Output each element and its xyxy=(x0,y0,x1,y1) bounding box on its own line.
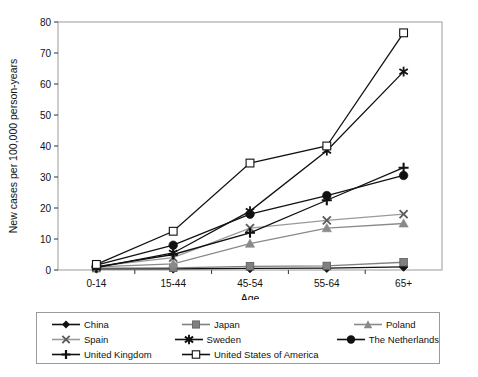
chart-legend: China Japan Poland xyxy=(36,312,440,364)
legend-label: United States of America xyxy=(211,350,319,360)
x-tick-label: 55-64 xyxy=(314,278,340,289)
united-states-of-america-marker-icon xyxy=(181,348,211,361)
legend-item-china: China xyxy=(51,317,181,332)
legend-item-spain: Spain xyxy=(51,332,174,347)
y-tick-label: 60 xyxy=(40,79,52,90)
data-point xyxy=(400,258,408,266)
legend-item-poland: Poland xyxy=(353,317,416,332)
x-axis-title: Age xyxy=(241,292,260,300)
legend-row: Spain Sweden The Netherlands xyxy=(51,332,439,347)
y-tick-label: 10 xyxy=(40,234,52,245)
poland-marker-icon xyxy=(353,318,383,331)
y-tick-label: 20 xyxy=(40,203,52,214)
legend-label: United Kingdom xyxy=(81,350,152,360)
legend-grid: China Japan Poland xyxy=(37,313,439,362)
china-marker-icon xyxy=(51,318,81,331)
the-netherlands-marker-icon xyxy=(336,333,366,346)
legend-label: Poland xyxy=(383,320,416,330)
x-tick-label: 45-54 xyxy=(237,278,263,289)
legend-item-united-kingdom: United Kingdom xyxy=(51,347,181,362)
y-tick-label: 70 xyxy=(40,48,52,59)
legend-item-sweden: Sweden xyxy=(174,332,336,347)
legend-item-the-netherlands: The Netherlands xyxy=(336,332,439,347)
data-point xyxy=(399,163,409,173)
sweden-marker-icon xyxy=(174,333,204,346)
x-tick-label: 15-44 xyxy=(160,278,186,289)
y-tick-label: 50 xyxy=(40,110,52,121)
united-kingdom-marker-icon xyxy=(51,348,81,361)
data-point xyxy=(399,219,408,227)
line-chart: 010203040506070800-1415-4445-5455-6465+A… xyxy=(0,0,478,300)
legend-label: Spain xyxy=(81,335,108,345)
legend-label: China xyxy=(81,320,109,330)
y-tick-label: 40 xyxy=(40,141,52,152)
plot-canvas: 010203040506070800-1415-4445-5455-6465+A… xyxy=(0,0,478,300)
y-tick-label: 0 xyxy=(45,265,51,276)
legend-item-japan: Japan xyxy=(181,317,353,332)
data-point xyxy=(246,210,255,219)
legend-row: United Kingdom United States of America xyxy=(51,347,439,362)
data-point xyxy=(323,262,331,270)
data-point xyxy=(246,262,254,270)
japan-marker-icon xyxy=(181,318,211,331)
chart-figure: 010203040506070800-1415-4445-5455-6465+A… xyxy=(0,0,478,377)
data-point xyxy=(323,142,331,150)
legend-label: Sweden xyxy=(204,335,241,345)
spain-marker-icon xyxy=(51,333,81,346)
data-point xyxy=(93,261,101,269)
y-tick-label: 80 xyxy=(40,17,52,28)
x-tick-label: 0-14 xyxy=(86,278,106,289)
series-line xyxy=(96,175,403,265)
legend-label: Japan xyxy=(211,320,240,330)
data-point xyxy=(169,227,177,235)
data-point xyxy=(169,241,178,250)
legend-item-united-states-of-america: United States of America xyxy=(181,347,353,362)
data-point xyxy=(246,159,254,167)
y-axis-title: New cases per 100,000 person-years xyxy=(7,59,19,234)
legend-label: The Netherlands xyxy=(366,335,439,345)
legend-row: China Japan Poland xyxy=(51,317,439,332)
y-tick-label: 30 xyxy=(40,172,52,183)
data-point xyxy=(400,29,408,37)
x-tick-label: 65+ xyxy=(395,278,412,289)
